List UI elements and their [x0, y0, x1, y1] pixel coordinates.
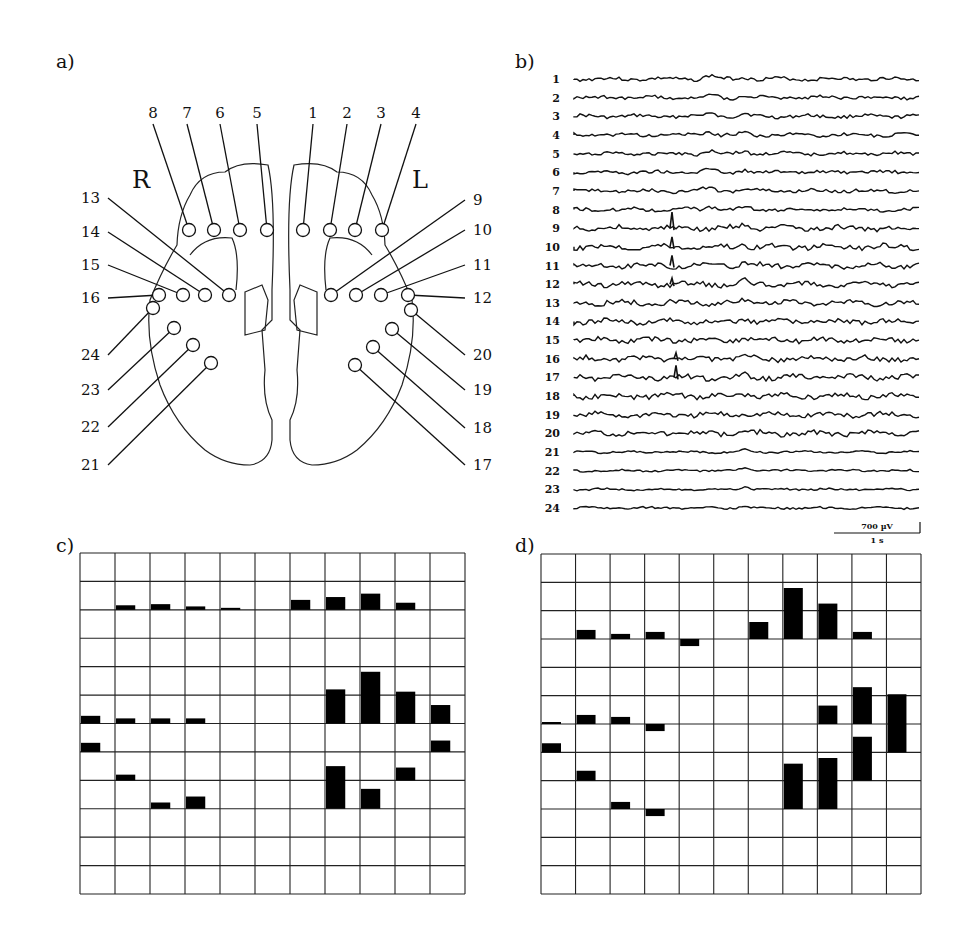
channel-label: 24 [545, 502, 561, 515]
channel-label: 5 [552, 148, 560, 161]
channel-label: 1 [552, 73, 560, 86]
electrode-label: 24 [81, 346, 100, 364]
bar [818, 706, 837, 724]
electrode-label: 9 [473, 191, 483, 209]
bar [186, 606, 205, 609]
eeg-channel-11: 11 [545, 256, 919, 273]
bar [577, 630, 596, 639]
electrode-label: 2 [342, 104, 352, 122]
electrode-label: 15 [81, 256, 100, 274]
electrode-label: 5 [252, 104, 262, 122]
electrode-10: 10 [350, 221, 493, 302]
electrode-label: 14 [81, 223, 100, 241]
bar [853, 687, 872, 724]
eeg-channel-14: 14 [545, 315, 919, 328]
eeg-channel-7: 7 [552, 185, 919, 198]
bar [784, 588, 803, 639]
bar [646, 632, 665, 639]
brain-outline-1 [289, 164, 414, 465]
channel-label: 18 [545, 390, 561, 403]
bar [542, 743, 561, 752]
channel-label: 11 [545, 260, 560, 273]
eeg-channel-15: 15 [545, 334, 919, 347]
figure: a)b)c)d) RL12345678910111213141516171819… [0, 0, 970, 941]
bar [853, 632, 872, 639]
eeg-channel-2: 2 [552, 92, 919, 105]
electrode-label: 23 [81, 381, 100, 399]
channel-label: 20 [545, 427, 561, 440]
electrode-2: 2 [324, 104, 352, 237]
electrode-label: 10 [473, 221, 492, 239]
panel-label-b: b) [515, 50, 535, 72]
channel-label: 8 [552, 204, 560, 217]
bar [81, 716, 100, 724]
channel-label: 23 [545, 483, 560, 496]
channel-label: 19 [545, 409, 560, 422]
bar [151, 802, 170, 808]
bar [611, 634, 630, 639]
eeg-channel-20: 20 [545, 427, 919, 440]
eeg-channel-3: 3 [552, 110, 919, 123]
electrode-9: 9 [325, 191, 483, 302]
electrode-label: 11 [473, 256, 492, 274]
bar [396, 768, 415, 781]
electrode-label: 16 [81, 289, 100, 307]
panel-label-a: a) [56, 50, 75, 72]
eeg-channel-24: 24 [545, 502, 919, 515]
bar [361, 594, 380, 610]
bar [542, 722, 561, 724]
eeg-channel-19: 19 [545, 409, 919, 422]
electrode-label: 19 [473, 381, 492, 399]
bar [326, 766, 345, 809]
panel-label-c: c) [56, 534, 74, 556]
electrode-label: 13 [81, 189, 100, 207]
channel-label: 16 [545, 353, 561, 366]
bar [291, 600, 310, 610]
panel-a-electrode-map: RL12345678910111213141516171819202122232… [81, 104, 492, 474]
bar [361, 672, 380, 724]
channel-label: 2 [552, 92, 560, 105]
bar [116, 605, 135, 610]
bar [396, 603, 415, 610]
bar [577, 771, 596, 781]
spike [674, 353, 678, 361]
panel-b-eeg-traces: 1234567891011121314151617181920212223247… [545, 73, 920, 545]
electrode-24: 24 [81, 302, 160, 365]
electrode-7: 7 [182, 104, 220, 237]
eeg-channel-17: 17 [545, 365, 919, 384]
bar [396, 692, 415, 724]
electrode-label: 4 [411, 104, 421, 122]
channel-label: 4 [552, 129, 560, 142]
bar [326, 597, 345, 610]
scale-bar: 700 µV1 s [834, 521, 920, 545]
bar [818, 604, 837, 639]
bar [784, 764, 803, 809]
electrode-6: 6 [215, 104, 246, 237]
electrode-label: 1 [308, 104, 318, 122]
electrode-8: 8 [148, 104, 195, 237]
eeg-channel-4: 4 [552, 129, 919, 142]
bar [680, 639, 699, 646]
scale-time: 1 s [871, 535, 884, 545]
bar [116, 718, 135, 723]
bar [611, 717, 630, 724]
bar [151, 718, 170, 723]
electrode-label: 20 [473, 346, 492, 364]
channel-label: 15 [545, 334, 560, 347]
panel-c-bar-grid [80, 553, 465, 894]
bar [326, 689, 345, 723]
bar [221, 608, 240, 610]
bar [186, 797, 205, 809]
eeg-channel-18: 18 [545, 390, 919, 403]
eeg-channel-16: 16 [545, 353, 919, 366]
bar [431, 705, 450, 723]
hemisphere-label-right: R [132, 166, 151, 194]
eeg-channel-13: 13 [545, 297, 919, 310]
electrode-5: 5 [252, 104, 273, 237]
eeg-channel-5: 5 [552, 148, 919, 161]
electrode-label: 3 [376, 104, 386, 122]
channel-label: 21 [545, 446, 560, 459]
electrode-label: 17 [473, 456, 492, 474]
bar [151, 604, 170, 610]
bar [611, 802, 630, 809]
